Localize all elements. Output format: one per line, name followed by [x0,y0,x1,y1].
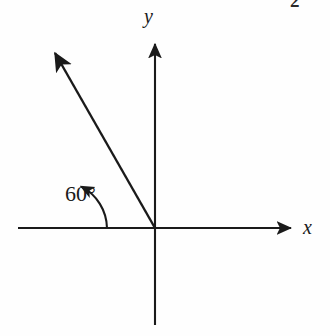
angle-measure-label: 60° [65,183,96,205]
angle-diagram-figure: y x 60° 2 [0,0,330,336]
x-axis-label: x [303,217,312,237]
y-axis-label: y [144,6,153,26]
angle-diagram-canvas [0,0,330,336]
figure-number-label: 2 [290,0,300,10]
